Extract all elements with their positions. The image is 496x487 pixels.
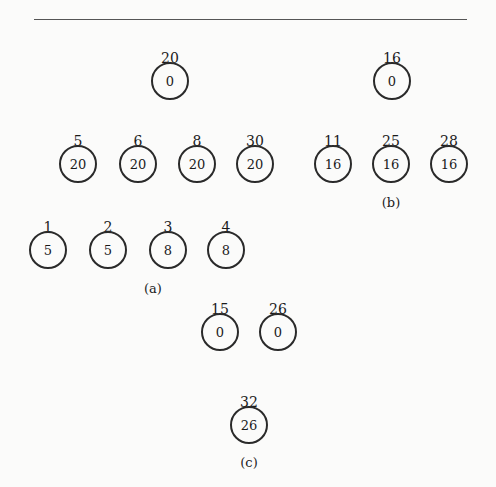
node-32: 32 26 [229, 395, 269, 455]
horizontal-rule [34, 19, 467, 20]
node-16: 16 0 [372, 51, 412, 111]
node-11: 11 16 [313, 134, 353, 194]
node-28: 28 16 [429, 134, 469, 194]
node-circle: 8 [149, 231, 187, 269]
caption-c: (c) [229, 455, 269, 470]
node-circle: 16 [314, 145, 352, 183]
node-circle: 20 [119, 145, 157, 183]
node-20: 20 0 [150, 51, 190, 111]
node-circle: 16 [430, 145, 468, 183]
node-circle: 26 [230, 406, 268, 444]
node-circle: 0 [373, 62, 411, 100]
node-25: 25 16 [371, 134, 411, 194]
node-1: 1 5 [28, 220, 68, 280]
node-circle: 20 [178, 145, 216, 183]
node-circle: 16 [372, 145, 410, 183]
node-circle: 5 [89, 231, 127, 269]
node-4: 4 8 [206, 220, 246, 280]
node-6: 6 20 [118, 134, 158, 194]
node-30: 30 20 [235, 134, 275, 194]
caption-b: (b) [371, 195, 411, 210]
node-circle: 0 [201, 313, 239, 351]
node-circle: 5 [29, 231, 67, 269]
node-3: 3 8 [148, 220, 188, 280]
node-circle: 20 [236, 145, 274, 183]
node-circle: 0 [259, 313, 297, 351]
node-26: 26 0 [258, 302, 298, 362]
node-circle: 20 [59, 145, 97, 183]
node-circle: 0 [151, 62, 189, 100]
node-8: 8 20 [177, 134, 217, 194]
node-5: 5 20 [58, 134, 98, 194]
node-15: 15 0 [200, 302, 240, 362]
node-circle: 8 [207, 231, 245, 269]
node-2: 2 5 [88, 220, 128, 280]
caption-a: (a) [133, 281, 173, 296]
